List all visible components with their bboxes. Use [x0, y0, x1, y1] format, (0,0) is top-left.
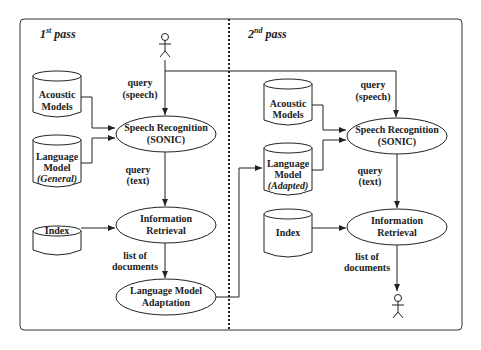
- svg-text:(Adapted): (Adapted): [268, 180, 309, 192]
- svg-text:(text): (text): [359, 176, 382, 188]
- svg-text:(speech): (speech): [123, 89, 158, 101]
- process-speech-recognition-1: Speech Recognition (SONIC): [116, 116, 216, 152]
- process-information-retrieval-1: Information Retrieval: [116, 207, 216, 243]
- two-pass-diagram: 1st pass 2nd pass Acoustic Models Langua…: [0, 0, 481, 350]
- svg-text:Speech Recognition: Speech Recognition: [124, 122, 208, 133]
- svg-text:query: query: [361, 79, 386, 90]
- svg-text:(speech): (speech): [356, 91, 391, 103]
- process-information-retrieval-2: Information Retrieval: [347, 209, 447, 245]
- svg-text:Speech Recognition: Speech Recognition: [355, 124, 439, 135]
- svg-text:Index: Index: [45, 225, 69, 236]
- svg-text:(General): (General): [37, 173, 77, 185]
- svg-text:(SONIC): (SONIC): [378, 136, 416, 148]
- svg-text:Language: Language: [36, 151, 79, 162]
- edge-label-query-text-2: query (text): [358, 165, 383, 188]
- svg-text:list of: list of: [123, 250, 147, 261]
- edge-lma-to-lm2: [216, 168, 262, 297]
- svg-text:documents: documents: [344, 262, 390, 273]
- svg-text:Model: Model: [274, 169, 301, 180]
- edge-lm2-to-sr2: [312, 140, 346, 170]
- database-index-2: Index: [264, 209, 312, 257]
- svg-text:Information: Information: [371, 215, 424, 226]
- database-acoustic-models-2: Acoustic Models: [264, 79, 312, 125]
- edge-am2-to-sr2: [312, 105, 346, 130]
- svg-text:documents: documents: [112, 261, 158, 272]
- edge-am1-to-sr1: [81, 97, 115, 128]
- svg-text:Models: Models: [41, 101, 72, 112]
- svg-text:list of: list of: [355, 251, 379, 262]
- database-language-model-adapted: Language Model (Adapted): [264, 143, 312, 195]
- svg-text:Retrieval: Retrieval: [377, 227, 417, 238]
- user-actor-icon: [159, 34, 171, 58]
- database-language-model-general: Language Model (General): [33, 135, 81, 187]
- process-language-model-adaptation: Language Model Adaptation: [116, 279, 216, 315]
- svg-text:Adaptation: Adaptation: [142, 297, 191, 308]
- svg-text:Acoustic: Acoustic: [270, 98, 307, 109]
- second-pass-title: 2nd pass: [247, 26, 287, 41]
- process-speech-recognition-2: Speech Recognition (SONIC): [347, 118, 447, 154]
- svg-text:Acoustic: Acoustic: [39, 89, 76, 100]
- edge-label-query-speech-2: query (speech): [356, 79, 391, 103]
- svg-text:Information: Information: [140, 213, 193, 224]
- svg-text:Language: Language: [267, 158, 310, 169]
- svg-text:Index: Index: [276, 227, 300, 238]
- svg-text:Retrieval: Retrieval: [146, 225, 186, 236]
- svg-text:Model: Model: [43, 162, 70, 173]
- database-index-1: Index: [33, 225, 81, 255]
- svg-text:Language Model: Language Model: [130, 285, 202, 296]
- svg-text:query: query: [128, 77, 153, 88]
- svg-text:query: query: [126, 164, 151, 175]
- diagram-frame: [20, 19, 462, 330]
- edge-label-list-of-documents-2: list of documents: [344, 251, 390, 273]
- edge-label-list-of-documents-1: list of documents: [112, 250, 158, 272]
- database-acoustic-models-1: Acoustic Models: [33, 71, 81, 117]
- svg-text:(text): (text): [127, 175, 150, 187]
- svg-text:query: query: [358, 165, 383, 176]
- svg-text:Models: Models: [272, 109, 303, 120]
- edge-label-query-text-1: query (text): [126, 164, 151, 187]
- edge-label-query-speech-1: query (speech): [123, 77, 158, 101]
- user-actor-icon: [392, 295, 404, 319]
- svg-text:(SONIC): (SONIC): [147, 134, 185, 146]
- first-pass-title: 1st pass: [40, 26, 76, 41]
- edge-lm1-to-sr1: [81, 138, 115, 163]
